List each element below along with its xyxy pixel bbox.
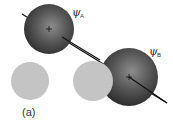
atom-disc-left [11,62,49,100]
axis-segment-a [62,37,100,60]
psi-b-subscript: B [157,52,161,58]
diagram-canvas: ψ A ψ B (a) [0,0,173,127]
psi-a-subscript: A [80,13,84,19]
orbital-diagram: ψ A ψ B (a) [0,0,173,127]
atom-disc-middle [73,61,113,101]
panel-label: (a) [22,106,35,118]
